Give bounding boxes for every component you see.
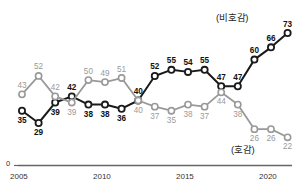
data-point-label: 52 xyxy=(150,62,160,71)
data-point-marker xyxy=(235,83,241,89)
data-point-marker xyxy=(102,79,108,85)
data-point-marker xyxy=(218,83,224,89)
data-point-marker xyxy=(285,30,291,36)
data-point-marker xyxy=(85,101,91,107)
data-point-label: 51 xyxy=(117,65,127,74)
data-point-marker xyxy=(36,73,42,79)
data-point-marker xyxy=(19,108,25,114)
data-point-label: 43 xyxy=(17,81,27,90)
data-point-label: 55 xyxy=(167,56,177,65)
x-tick-label-2015: 2015 xyxy=(176,172,194,181)
data-point-label: 47 xyxy=(217,73,227,82)
data-point-label: 39 xyxy=(67,108,77,117)
data-point-label: 66 xyxy=(266,34,276,43)
data-point-label: 40 xyxy=(134,106,144,115)
data-point-label: 29 xyxy=(34,128,44,137)
data-point-marker xyxy=(185,101,191,107)
data-point-label: 38 xyxy=(100,110,110,119)
data-point-marker xyxy=(251,126,257,132)
data-point-label: 73 xyxy=(283,20,293,29)
series-label-unfavorable: (비호감) xyxy=(216,10,248,24)
data-point-marker xyxy=(52,93,58,99)
data-point-label: 55 xyxy=(200,56,210,65)
data-point-marker xyxy=(202,67,208,73)
data-point-marker xyxy=(152,73,158,79)
data-point-marker xyxy=(185,69,191,75)
data-point-label: 37 xyxy=(200,112,210,121)
data-point-marker xyxy=(285,134,291,140)
data-point-marker xyxy=(268,44,274,50)
axis-zero-label: 0 xyxy=(6,159,10,168)
x-tick-label-2005: 2005 xyxy=(10,172,28,181)
x-tick-label-2010: 2010 xyxy=(93,172,111,181)
chart-plot-area: 3529394238383640525554554747606673435242… xyxy=(0,0,306,193)
data-point-label: 49 xyxy=(100,69,110,78)
data-point-label: 42 xyxy=(51,83,61,92)
data-point-label: 36 xyxy=(117,114,127,123)
data-point-label: 35 xyxy=(17,116,27,125)
data-point-marker xyxy=(52,99,58,105)
data-point-label: 42 xyxy=(67,83,77,92)
data-point-marker xyxy=(168,108,174,114)
data-point-marker xyxy=(202,104,208,110)
data-point-label: 38 xyxy=(183,110,193,119)
data-point-label: 44 xyxy=(217,97,227,106)
data-point-marker xyxy=(268,126,274,132)
data-point-label: 39 xyxy=(51,108,61,117)
data-point-label: 50 xyxy=(84,67,94,76)
data-point-label: 38 xyxy=(84,110,94,119)
x-tick-label-2020: 2020 xyxy=(259,172,277,181)
data-point-marker xyxy=(152,104,158,110)
data-point-marker xyxy=(119,75,125,81)
data-point-marker xyxy=(218,89,224,95)
data-point-marker xyxy=(19,91,25,97)
data-point-label: 37 xyxy=(150,112,160,121)
data-point-label: 54 xyxy=(183,58,193,67)
data-point-label: 38 xyxy=(233,110,243,119)
data-point-label: 60 xyxy=(250,46,260,55)
data-point-marker xyxy=(168,67,174,73)
data-point-marker xyxy=(85,77,91,83)
data-point-marker xyxy=(251,57,257,63)
data-point-label: 26 xyxy=(266,134,276,143)
data-point-label: 22 xyxy=(283,142,293,151)
line-chart: 3529394238383640525554554747606673435242… xyxy=(0,0,306,193)
series-label-favorable: (호감) xyxy=(231,142,255,156)
data-point-label: 35 xyxy=(167,116,177,125)
data-point-marker xyxy=(235,101,241,107)
data-point-label: 40 xyxy=(134,87,144,96)
data-point-marker xyxy=(119,106,125,112)
data-point-marker xyxy=(135,97,141,103)
data-point-label: 47 xyxy=(233,73,243,82)
series-layer: 3529394238383640525554554747606673435242… xyxy=(17,20,292,152)
data-point-marker xyxy=(36,120,42,126)
data-point-marker xyxy=(69,99,75,105)
data-point-marker xyxy=(102,101,108,107)
data-point-label: 52 xyxy=(34,62,44,71)
